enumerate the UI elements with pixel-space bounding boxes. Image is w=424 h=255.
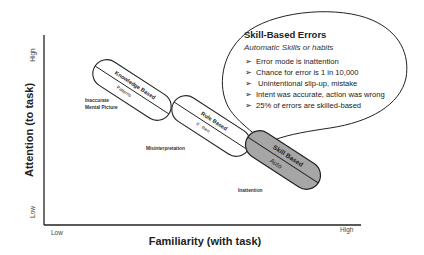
callout-item: Intent was accurate, action was wrong — [256, 90, 385, 99]
callout-item: Error mode is inattention — [256, 57, 339, 66]
note-inaccurate-mental-picture: Inaccurate — [85, 98, 109, 103]
callout-subtitle: Automatic Skills or habits — [243, 43, 333, 52]
x-axis-title: Familiarity (with task) — [149, 235, 262, 247]
callout-item: Chance for error is 1 in 10,000 — [256, 68, 359, 77]
bullet-arrow-icon: ➢ — [245, 68, 252, 77]
note-inaccurate-mental-picture: Mental Picture — [85, 105, 118, 110]
capsule-knowledge-based: Knowledge Based Patterns — [87, 54, 176, 125]
y-axis-title: Attention (to task) — [23, 83, 35, 177]
x-tick-low: Low — [51, 229, 63, 236]
note-misinterpretation: Misinterpretation — [146, 146, 185, 151]
y-tick-high: High — [29, 48, 37, 62]
callout-item: Unintentional slip-up, mistake — [256, 79, 357, 88]
bullet-arrow-icon: ➢ — [245, 79, 252, 88]
skill-rule-knowledge-diagram: Attention (to task) High Low Low High Fa… — [0, 0, 424, 255]
bullet-arrow-icon: ➢ — [245, 101, 252, 110]
callout-item: 25% of errors are skilled-based — [256, 101, 361, 110]
y-tick-low: Low — [29, 206, 36, 218]
callout-title: Skill-Based Errors — [244, 29, 326, 40]
x-tick-high: High — [340, 226, 354, 234]
bullet-arrow-icon: ➢ — [245, 57, 252, 66]
bullet-arrow-icon: ➢ — [245, 90, 252, 99]
note-inattention: Inattention — [238, 188, 263, 193]
